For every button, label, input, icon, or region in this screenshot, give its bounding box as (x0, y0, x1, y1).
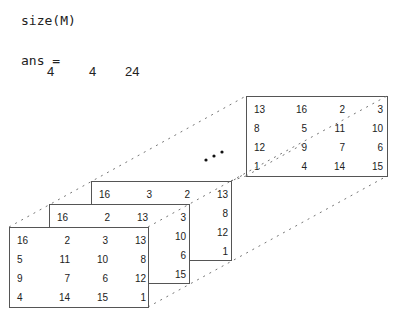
perspective-lines-front (0, 0, 399, 320)
